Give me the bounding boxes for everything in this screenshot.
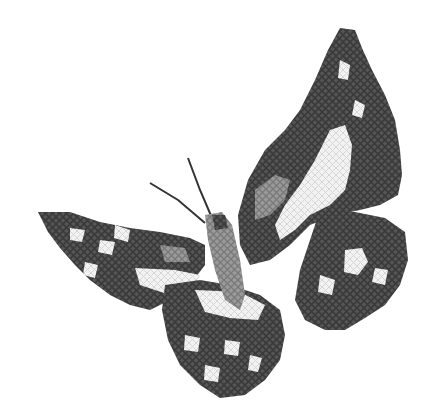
butterfly-illustration	[0, 0, 430, 418]
antenna-left	[150, 183, 205, 223]
hindwing-right	[295, 210, 408, 330]
antenna-right	[188, 158, 212, 218]
butterfly-image	[0, 0, 430, 418]
hindwing-left	[162, 280, 285, 398]
